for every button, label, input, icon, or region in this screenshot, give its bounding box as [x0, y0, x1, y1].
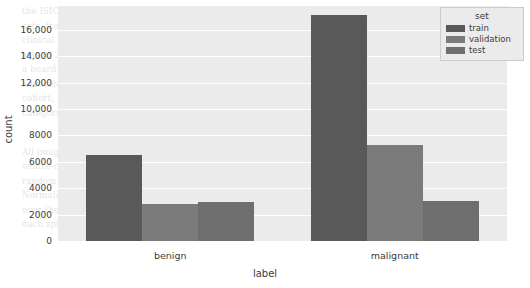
x-axis-label: label	[0, 268, 530, 279]
legend-title: set	[446, 11, 518, 21]
legend-item-label: validation	[469, 34, 511, 44]
x-tick-label-benign: benign	[154, 250, 187, 261]
gridline	[58, 241, 507, 242]
legend-entries: trainvalidationtest	[446, 23, 518, 55]
y-tick-label: 12,000	[0, 78, 58, 88]
bar-benign-validation	[142, 204, 198, 241]
legend-item-validation[interactable]: validation	[446, 34, 518, 44]
gridline	[58, 135, 507, 136]
y-tick-label: 16,000	[0, 25, 58, 35]
bar-malignant-validation	[367, 145, 423, 241]
bar-benign-test	[198, 202, 254, 241]
legend-swatch-icon	[446, 25, 465, 32]
gridline	[58, 83, 507, 84]
y-tick-label: 4000	[0, 183, 58, 193]
legend-item-train[interactable]: train	[446, 23, 518, 33]
y-tick-label: 2000	[0, 210, 58, 220]
y-axis-label: count	[3, 115, 14, 143]
bar-malignant-train	[311, 15, 367, 241]
y-tick-label: 10,000	[0, 104, 58, 114]
bar-malignant-test	[423, 201, 479, 241]
legend-item-label: test	[469, 45, 485, 55]
legend: set trainvalidationtest	[440, 7, 524, 61]
y-tick-label: 14,000	[0, 51, 58, 61]
gridline	[58, 109, 507, 110]
legend-item-test[interactable]: test	[446, 45, 518, 55]
x-tick-label-malignant: malignant	[371, 250, 419, 261]
chart-figure: the ISIC archive. Images were collected …	[0, 0, 530, 288]
bar-benign-train	[86, 155, 142, 241]
y-tick-label: 6000	[0, 157, 58, 167]
legend-swatch-icon	[446, 36, 465, 43]
legend-swatch-icon	[446, 47, 465, 54]
legend-item-label: train	[469, 23, 489, 33]
y-tick-label: 0	[0, 236, 58, 246]
